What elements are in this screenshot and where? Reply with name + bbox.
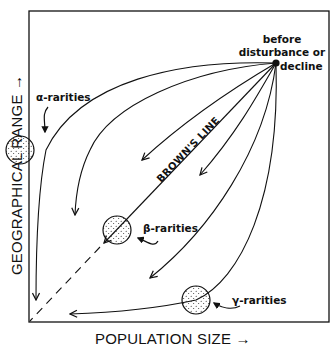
rarity-diagram: α-rarities β-rarities γ-rarities before … [0, 0, 335, 349]
beta-rarity-circle [103, 216, 131, 244]
beta-pointer-arrow [138, 238, 158, 244]
alpha-rarities-label: α-rarities [36, 91, 91, 103]
y-axis-label: GEOGRAPHICAL RANGE → [8, 75, 25, 275]
gamma-rarity-circle [182, 286, 210, 314]
trajectory-3 [142, 63, 276, 160]
x-axis-label: POPULATION SIZE → [95, 330, 251, 347]
origin-label-line2: disturbance or [239, 46, 326, 58]
beta-rarities-label: β-rarities [143, 222, 198, 234]
origin-point [272, 59, 279, 66]
trajectory-2 [75, 63, 276, 215]
browns-line-label: BROWN'S LINE [154, 115, 221, 185]
origin-label-line3: decline [280, 60, 323, 72]
alpha-pointer-arrow [44, 107, 48, 132]
origin-label-line1: before [263, 33, 302, 45]
gamma-rarities-label: γ-rarities [232, 294, 287, 306]
trajectory-gamma [70, 63, 276, 314]
